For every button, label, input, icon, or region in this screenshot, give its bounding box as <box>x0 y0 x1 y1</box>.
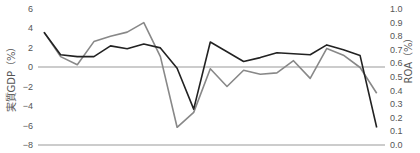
right-axis-ticks: 1.00.90.80.70.60.50.40.30.20.10.0 <box>390 4 403 150</box>
right-axis-tick: 0.4 <box>390 86 403 96</box>
right-axis-tick: 0.0 <box>390 140 403 150</box>
right-axis-label: ROA（%） <box>403 33 414 84</box>
right-axis-tick: 0.7 <box>390 45 403 55</box>
left-axis-tick: 2 <box>28 43 33 53</box>
left-axis-tick: −2 <box>23 82 33 92</box>
left-axis-label: 実質GDP（%） <box>5 42 17 113</box>
right-axis-tick: 0.9 <box>390 18 403 28</box>
left-axis-tick: −6 <box>23 121 33 131</box>
left-axis-tick: 4 <box>28 23 33 33</box>
left-axis-tick: 0 <box>28 62 33 72</box>
right-axis-tick: 0.6 <box>390 58 403 68</box>
right-axis-tick: 0.1 <box>390 126 403 136</box>
left-axis-ticks: 6420−2−4−6−8 <box>23 4 33 150</box>
left-axis-tick: −4 <box>23 101 33 111</box>
roa-series-line <box>44 23 377 128</box>
right-axis-tick: 0.5 <box>390 72 403 82</box>
gdp-series-line <box>44 32 377 127</box>
right-axis-tick: 0.2 <box>390 113 403 123</box>
left-axis-tick: 6 <box>28 4 33 14</box>
right-axis-tick: 0.3 <box>390 99 403 109</box>
right-axis-tick: 1.0 <box>390 4 403 14</box>
left-axis-tick: −8 <box>23 140 33 150</box>
right-axis-tick: 0.8 <box>390 31 403 41</box>
dual-axis-line-chart: 6420−2−4−6−8 1.00.90.80.70.60.50.40.30.2… <box>0 0 420 153</box>
